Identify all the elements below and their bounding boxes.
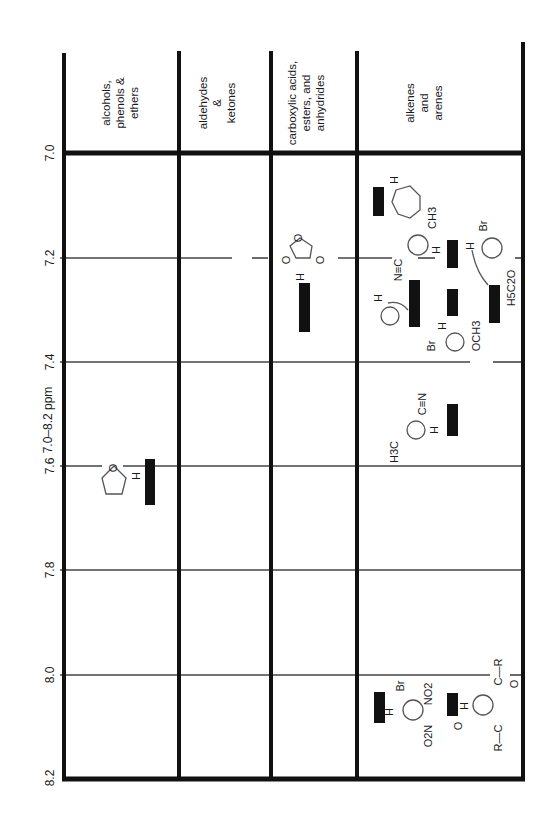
svg-text:H: H xyxy=(428,426,440,434)
svg-text:H: H xyxy=(294,273,306,281)
tick-label: 8.2 xyxy=(43,769,57,786)
svg-text:O: O xyxy=(107,463,119,472)
svg-text:O2N: O2N xyxy=(422,725,434,748)
svg-text:Br: Br xyxy=(477,220,489,231)
svg-text:alkenes: alkenes xyxy=(404,83,416,123)
svg-text:&: & xyxy=(211,99,223,107)
svg-text:H: H xyxy=(430,246,442,254)
tick-label: 7.8 xyxy=(43,561,57,578)
svg-text:OCH3: OCH3 xyxy=(470,321,482,352)
tick-label: 7.2 xyxy=(43,249,57,266)
svg-text:O: O xyxy=(508,679,520,688)
tick-labels: 7.0 7.2 7.4 7.6 7.8 8.0 8.2 xyxy=(43,144,57,786)
structure-maleic-anhydride: O O O H xyxy=(280,233,326,281)
tick-label: 8.0 xyxy=(43,666,57,683)
svg-text:anhydrides: anhydrides xyxy=(314,75,326,132)
axis-title: 7.0–8.2 ppm xyxy=(41,387,55,454)
svg-text:H: H xyxy=(383,708,395,716)
column-header-alcohols: alcohols, phenols & ethers xyxy=(100,77,140,128)
structure-benzonitrile: H N≡C xyxy=(372,259,408,325)
svg-text:C—R: C—R xyxy=(492,659,504,686)
tick-label: 7.0 xyxy=(43,144,57,161)
svg-text:O: O xyxy=(452,721,464,730)
nmr-shift-chart: 7.0–8.2 ppm 7.0 7.2 7.4 7.6 7.8 8.0 8.2 xyxy=(0,0,560,821)
tick-label: 7.6 xyxy=(43,457,57,474)
bar-bromo-ethoxybenzene xyxy=(489,285,500,323)
bar-diacylbenzene xyxy=(447,693,458,716)
gridlines xyxy=(60,258,523,675)
svg-text:H: H xyxy=(464,242,476,250)
bar-toluene xyxy=(447,240,458,268)
svg-text:H: H xyxy=(458,702,470,710)
svg-text:H: H xyxy=(372,294,384,302)
svg-text:Br: Br xyxy=(394,680,406,691)
svg-text:CH3: CH3 xyxy=(426,207,438,229)
svg-text:H: H xyxy=(436,322,448,330)
tick-label: 7.4 xyxy=(43,353,57,370)
structure-bromodinitrobenzene: Br NO2 O2N H xyxy=(383,680,434,747)
svg-text:O: O xyxy=(292,233,304,242)
svg-text:H: H xyxy=(130,472,142,480)
svg-text:esters, and: esters, and xyxy=(300,75,312,132)
svg-text:H: H xyxy=(388,176,400,184)
shift-bars xyxy=(145,187,500,723)
structure-bromoanisole: Br H OCH3 xyxy=(425,321,482,352)
column-header-carboxylic: carboxylic acids, esters, and anhydrides xyxy=(286,61,326,145)
svg-text:N≡C: N≡C xyxy=(392,259,404,281)
svg-text:and: and xyxy=(418,93,430,112)
svg-text:C≡N: C≡N xyxy=(416,393,428,415)
structure-tolunitrile: C≡N H H3C xyxy=(388,393,440,463)
svg-text:H3C: H3C xyxy=(388,441,400,463)
svg-text:carboxylic acids,: carboxylic acids, xyxy=(286,61,298,145)
bar-maleic-anhydride xyxy=(299,283,310,332)
bar-furan xyxy=(145,459,155,505)
bar-benzonitrile xyxy=(409,280,420,327)
svg-text:aldehydes: aldehydes xyxy=(197,77,209,130)
bar-tolunitrile xyxy=(447,404,458,436)
svg-text:Br: Br xyxy=(425,340,437,351)
svg-text:ketones: ketones xyxy=(225,83,237,124)
svg-text:O: O xyxy=(280,255,292,264)
structure-toluene: CH3 H xyxy=(408,207,442,255)
structure-furan: O H xyxy=(102,463,142,494)
svg-text:H5C2O: H5C2O xyxy=(505,269,517,306)
svg-text:R—C: R—C xyxy=(492,725,504,752)
structure-diacylbenzene: C—R O H R—C O xyxy=(452,659,520,752)
bar-bromoanisole xyxy=(447,289,458,316)
column-header-aldehydes: aldehydes & ketones xyxy=(197,77,237,130)
structure-cycloheptatriene: H xyxy=(388,176,420,218)
svg-text:alcohols,: alcohols, xyxy=(100,80,112,125)
svg-text:phenols &: phenols & xyxy=(114,77,126,128)
bar-cycloheptatriene xyxy=(373,187,384,216)
svg-text:NO2: NO2 xyxy=(422,683,434,706)
svg-text:ethers: ethers xyxy=(128,87,140,119)
column-header-alkenes: alkenes and arenes xyxy=(404,83,444,123)
bar-bromodinitrobenzene xyxy=(374,692,385,723)
svg-text:arenes: arenes xyxy=(432,85,444,120)
svg-text:O: O xyxy=(314,255,326,264)
